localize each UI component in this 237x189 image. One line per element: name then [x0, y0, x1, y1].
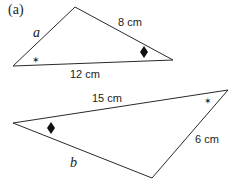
- part-label: (a): [8, 2, 24, 18]
- side-label-b: b: [70, 155, 77, 170]
- diamond-angle-mark-icon: [140, 46, 148, 58]
- triangle-top: a 8 cm 12 cm ✶: [13, 7, 173, 80]
- side-label-8cm: 8 cm: [118, 16, 142, 28]
- diamond-angle-mark-icon: [47, 122, 55, 134]
- side-label-6cm: 6 cm: [195, 133, 219, 145]
- star-angle-mark-icon: ✶: [204, 96, 212, 106]
- side-label-15cm: 15 cm: [92, 92, 122, 104]
- similar-triangles-diagram: (a) a 8 cm 12 cm ✶ 15 cm 6 cm b ✶: [0, 0, 237, 189]
- side-label-a: a: [33, 25, 40, 40]
- star-angle-mark-icon: ✶: [32, 55, 40, 65]
- side-label-12cm: 12 cm: [70, 68, 100, 80]
- triangle-bottom: 15 cm 6 cm b ✶: [13, 90, 228, 178]
